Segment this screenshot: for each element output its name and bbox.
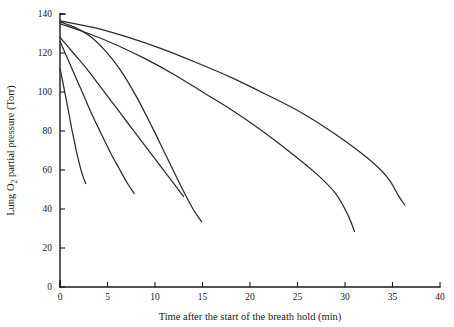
x-tick-label-40: 40 bbox=[435, 292, 445, 302]
x-axis-title: Time after the start of the breath hold … bbox=[159, 311, 342, 323]
x-tick-label-0: 0 bbox=[58, 292, 63, 302]
x-tick-label-5: 5 bbox=[105, 292, 110, 302]
curve-curve-1-shortest-breath-hold bbox=[60, 69, 86, 184]
data-curves bbox=[60, 21, 405, 232]
y-tick-label-100: 100 bbox=[38, 87, 53, 97]
x-tick-label-15: 15 bbox=[198, 292, 208, 302]
y-tick-label-40: 40 bbox=[43, 204, 53, 214]
x-tick-label-20: 20 bbox=[245, 292, 255, 302]
y-tick-label-80: 80 bbox=[43, 126, 53, 136]
tick-labels: 0204060801001201400510152025303540 bbox=[38, 9, 445, 302]
tick-marks bbox=[60, 14, 440, 287]
axis-lines bbox=[60, 14, 440, 287]
x-tick-label-30: 30 bbox=[340, 292, 350, 302]
y-axis-title: Lung O2 partial pressure (Torr) bbox=[5, 85, 19, 216]
y-tick-label-120: 120 bbox=[38, 48, 53, 58]
axes bbox=[60, 14, 440, 287]
y-tick-label-60: 60 bbox=[43, 165, 53, 175]
curve-curve-6-longest-breath-hold bbox=[60, 21, 405, 205]
x-tick-label-10: 10 bbox=[150, 292, 160, 302]
y-tick-label-0: 0 bbox=[47, 282, 52, 292]
y-tick-label-20: 20 bbox=[43, 243, 53, 253]
lung-oxygen-partial-pressure-chart: 0204060801001201400510152025303540 Time … bbox=[0, 0, 454, 327]
x-tick-label-25: 25 bbox=[293, 292, 303, 302]
curve-curve-5 bbox=[60, 24, 355, 232]
x-tick-label-35: 35 bbox=[388, 292, 398, 302]
y-tick-label-140: 140 bbox=[38, 9, 53, 19]
chart-figure: 0204060801001201400510152025303540 Time … bbox=[0, 0, 454, 327]
